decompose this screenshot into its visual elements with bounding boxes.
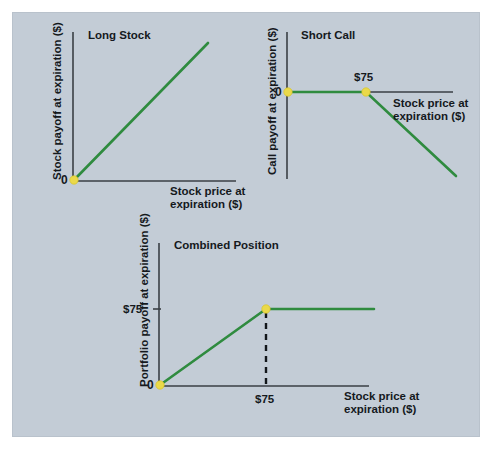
combined-origin-label: 0: [147, 378, 154, 393]
short-call-y-axis-label: Call payoff at expiration ($): [265, 27, 279, 175]
combined-origin-marker: [156, 381, 164, 389]
short-call-x-axis-label-line1: Stock price at: [393, 96, 468, 110]
combined-x-axis-label-line1: Stock price at: [344, 389, 419, 403]
long-stock-payoff-line: [74, 43, 208, 180]
short-call-origin-label: 0: [275, 85, 282, 100]
plot-vector-layer: [0, 0, 493, 452]
long-stock-origin-label: 0: [61, 173, 68, 188]
long-stock-x-axis-label-line1: Stock price at: [170, 184, 245, 198]
long-stock-y-axis-label: Stock payoff at expiration ($): [50, 22, 64, 180]
chart-long-stock: [70, 32, 236, 184]
long-stock-x-axis-label-line2: expiration ($): [170, 197, 242, 211]
combined-strike-marker: [262, 305, 270, 313]
long-stock-title: Long Stock: [88, 28, 151, 42]
payoff-diagram-figure: Long Stock Stock payoff at expiration ($…: [0, 0, 493, 452]
short-call-x-axis-label-line2: expiration ($): [393, 109, 465, 123]
long-stock-origin-marker: [70, 176, 78, 184]
short-call-strike-label: $75: [354, 70, 373, 84]
chart-combined-position: [153, 243, 374, 389]
short-call-title: Short Call: [301, 28, 355, 42]
combined-x-axis-label-line2: expiration ($): [344, 402, 416, 416]
short-call-origin-marker: [284, 88, 292, 96]
combined-y-tick-label: $75: [123, 302, 142, 316]
combined-position-title: Combined Position: [174, 238, 279, 252]
short-call-strike-marker: [362, 88, 370, 96]
combined-x-tick-label: $75: [255, 392, 274, 406]
combined-y-axis-label: Portfolio payoff at expiration ($): [137, 213, 151, 387]
